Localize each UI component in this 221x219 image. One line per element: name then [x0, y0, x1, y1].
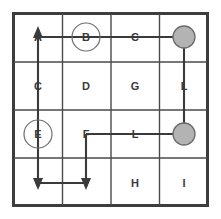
cell-label-r4c1: V [34, 177, 42, 189]
cell-label-r4c2: Y [82, 177, 90, 189]
cell-label-r1c2: B [82, 31, 90, 43]
cell-label-r2c2: D [82, 80, 90, 92]
cell-label-r1c3: C [131, 31, 139, 43]
cell-label-r3c2: F [83, 128, 90, 140]
cell-label-r4c4: I [182, 177, 185, 189]
cell-label-r1c1: A [34, 31, 42, 43]
cell-label-r2c4: L [181, 80, 188, 92]
cell-label-r3c1: E [34, 128, 41, 140]
cell-label-r4c3: H [131, 177, 139, 189]
goal-dot-top-right [173, 26, 195, 48]
cell-label-r2c1: C [34, 80, 42, 92]
grid-maze-svg: A B C C D G L E F L V Y H I [0, 0, 221, 219]
cell-label-r3c3: L [132, 128, 139, 140]
maze-diagram-canvas: A B C C D G L E F L V Y H I [0, 0, 221, 219]
cell-label-r2c3: G [131, 80, 140, 92]
goal-dot-middle-right [173, 123, 195, 145]
